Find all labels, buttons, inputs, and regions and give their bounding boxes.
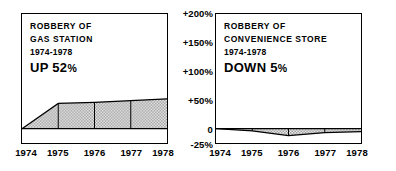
x-tick-1975: 1975 bbox=[241, 147, 263, 158]
x-axis-labels-convenience-store: 19741975197619771978 bbox=[215, 147, 362, 161]
chart-panel-convenience-store: ROBBERY OF CONVENIENCE STORE 1974-1978 D… bbox=[215, 13, 362, 144]
caption-years: 1974-1978 bbox=[224, 45, 327, 60]
caption-title-line1: ROBBERY OF bbox=[30, 20, 93, 33]
x-tick-1976: 1976 bbox=[278, 147, 300, 158]
x-tick-1976: 1976 bbox=[84, 147, 106, 158]
caption-title-line1: ROBBERY OF bbox=[224, 20, 327, 33]
x-tick-1975: 1975 bbox=[47, 147, 69, 158]
y-tick-200: +200% bbox=[183, 8, 213, 19]
caption-headline: DOWN 5% bbox=[224, 60, 327, 76]
y-tick-100: +100% bbox=[183, 66, 213, 77]
caption-headline-text: UP 52 bbox=[30, 60, 67, 75]
caption-headline: UP 52% bbox=[30, 60, 93, 76]
caption-convenience-store: ROBBERY OF CONVENIENCE STORE 1974-1978 D… bbox=[224, 20, 327, 76]
chart-panel-gas-station: ROBBERY OF GAS STATION 1974-1978 UP 52% bbox=[21, 13, 168, 144]
caption-title-line2: GAS STATION bbox=[30, 33, 93, 46]
y-tick-150: +150% bbox=[183, 37, 213, 48]
x-tick-1978: 1978 bbox=[346, 147, 368, 158]
y-axis-labels: +200%+150%+100%+50%0-25% bbox=[170, 0, 215, 171]
caption-headline-percent: % bbox=[67, 62, 77, 74]
figure-root: ROBBERY OF GAS STATION 1974-1978 UP 52% … bbox=[0, 0, 396, 171]
x-tick-1977: 1977 bbox=[120, 147, 142, 158]
x-tick-1978: 1978 bbox=[152, 147, 174, 158]
x-tick-1974: 1974 bbox=[209, 147, 231, 158]
caption-gas-station: ROBBERY OF GAS STATION 1974-1978 UP 52% bbox=[30, 20, 93, 76]
x-axis-labels-gas-station: 19741975197619771978 bbox=[21, 147, 168, 161]
y-tick-50: +50% bbox=[188, 95, 213, 106]
caption-title-line2: CONVENIENCE STORE bbox=[224, 33, 327, 46]
x-tick-1977: 1977 bbox=[314, 147, 336, 158]
x-tick-1974: 1974 bbox=[15, 147, 37, 158]
caption-headline-percent: % bbox=[278, 62, 288, 74]
caption-years: 1974-1978 bbox=[30, 45, 93, 60]
y-tick-0: 0 bbox=[208, 124, 213, 135]
caption-headline-text: DOWN 5 bbox=[224, 60, 278, 75]
